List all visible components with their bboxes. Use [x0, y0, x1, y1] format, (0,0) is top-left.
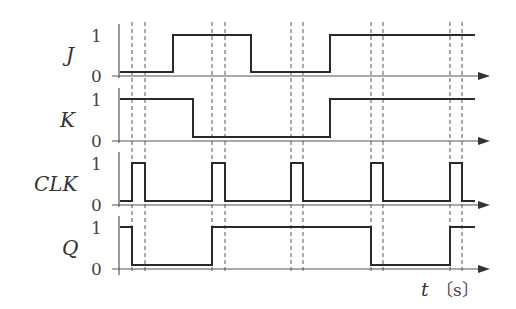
- signal-label-clk: CLK: [34, 172, 79, 196]
- signal-label-j: J: [62, 43, 75, 67]
- tick-1-k: 1: [91, 90, 102, 110]
- signal-label-q: Q: [62, 236, 78, 260]
- arrow-right-icon: [478, 72, 490, 80]
- time-axis-label: t: [421, 278, 429, 300]
- tick-0-q: 0: [91, 259, 102, 279]
- tick-1-j: 1: [91, 26, 102, 46]
- waveform-k: [120, 99, 475, 137]
- waveform-q: [120, 227, 475, 265]
- arrow-right-icon: [478, 137, 490, 145]
- signal-label-k: K: [59, 108, 76, 132]
- arrow-right-icon: [478, 201, 490, 209]
- timing-diagram: J 1 0 K 1 0 CLK 1 0 Q 1 0 t 〔s〕: [0, 0, 516, 309]
- waveforms: [120, 35, 475, 265]
- time-axes: [112, 72, 490, 273]
- tick-0-k: 0: [91, 131, 102, 151]
- time-axis-unit: 〔s〕: [436, 280, 479, 300]
- row-CLK: CLK 1 0: [34, 154, 102, 215]
- waveform-j: [120, 35, 475, 72]
- tick-1-clk: 1: [91, 154, 102, 174]
- tick-1-q: 1: [91, 218, 102, 238]
- clock-edge-guides: [132, 22, 462, 272]
- tick-0-j: 0: [91, 66, 102, 86]
- row-K: K 1 0: [59, 90, 102, 151]
- row-J: J 1 0: [62, 26, 102, 86]
- arrow-right-icon: [478, 265, 490, 273]
- tick-0-clk: 0: [91, 195, 102, 215]
- waveform-clk: [120, 163, 475, 201]
- row-Q: Q 1 0: [62, 218, 102, 279]
